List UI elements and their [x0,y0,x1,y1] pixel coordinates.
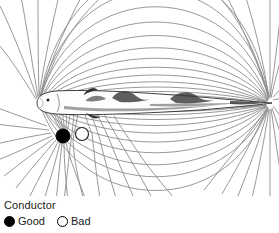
legend-title: Conductor [4,199,56,211]
good-conductor-object[interactable] [56,129,70,143]
field-line [40,0,269,98]
field-line [30,142,58,196]
legend-label-good: Good [18,215,45,227]
field-line [41,22,268,100]
field-line [66,143,86,196]
field-line [273,94,279,100]
fish-eye [47,99,50,102]
field-line [0,6,37,98]
legend-items: Good Bad [4,215,91,227]
bad-conductor-swatch-icon [57,216,68,227]
field-line [0,133,51,144]
good-conductor-swatch-icon [4,216,15,227]
legend: Conductor Good Bad [0,196,279,233]
field-diagram [0,0,279,196]
figure-root: Conductor Good Bad [0,0,279,233]
field-line [271,109,279,196]
fish-body-group [37,88,272,118]
field-line [0,124,49,130]
field-line [0,136,52,160]
field-line [271,36,279,98]
field-lines-svg [0,0,279,196]
field-line [40,7,269,99]
legend-label-bad: Bad [71,215,91,227]
field-line [38,0,39,96]
bad-conductor-object[interactable] [76,128,89,141]
field-line [56,143,62,196]
field-line [0,108,47,126]
field-line-around-insulator [73,109,84,196]
field-line [244,0,269,97]
field-line [4,138,54,176]
field-line [20,0,38,97]
